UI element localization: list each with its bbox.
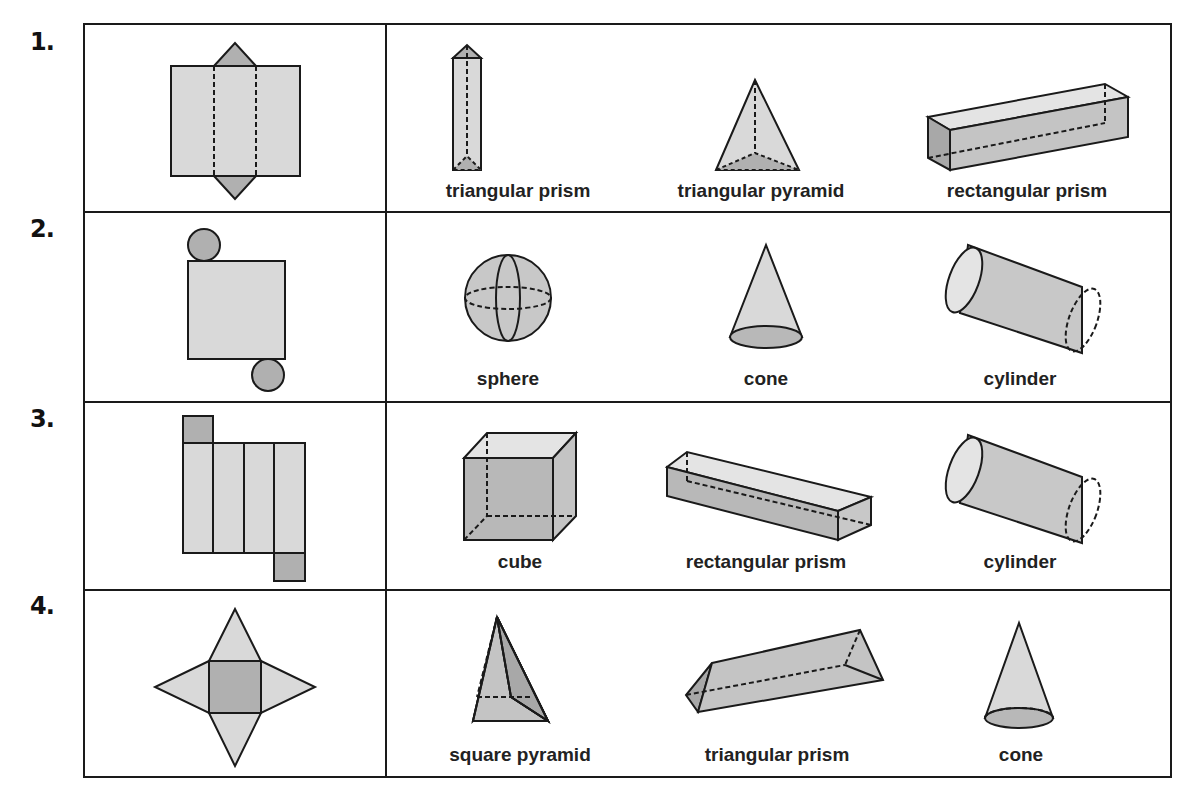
choice-label: triangular pyramid	[651, 180, 871, 202]
triangular-prism-icon[interactable]	[453, 45, 481, 170]
rectangular-prism-net-icon	[183, 416, 305, 581]
square-pyramid-icon[interactable]	[458, 617, 548, 721]
choice-label: square pyramid	[410, 744, 630, 766]
rectangular-prism-icon[interactable]	[667, 452, 871, 540]
choice-label: cylinder	[910, 551, 1130, 573]
choice-label: cylinder	[910, 368, 1130, 390]
cone-icon[interactable]	[730, 245, 802, 348]
triangular-prism-net-icon	[171, 43, 300, 199]
choice-label: rectangular prism	[917, 180, 1137, 202]
cylinder-icon[interactable]	[938, 243, 1107, 356]
choice-label: triangular prism	[667, 744, 887, 766]
choice-label: sphere	[398, 368, 618, 390]
cylinder-icon[interactable]	[938, 433, 1107, 546]
square-pyramid-net-icon	[155, 609, 315, 766]
cube-icon[interactable]	[464, 433, 576, 540]
choice-label: cone	[911, 744, 1131, 766]
cylinder-net-icon	[188, 229, 285, 391]
sphere-icon[interactable]	[465, 255, 551, 341]
choice-label: triangular prism	[408, 180, 628, 202]
triangular-pyramid-icon[interactable]	[716, 80, 799, 170]
choice-label: cone	[656, 368, 876, 390]
shapes-layer	[0, 0, 1199, 804]
choice-label: rectangular prism	[656, 551, 876, 573]
rectangular-prism-icon[interactable]	[928, 84, 1128, 170]
choice-label: cube	[410, 551, 630, 573]
cone-icon[interactable]	[985, 623, 1053, 728]
triangular-prism-icon[interactable]	[686, 630, 883, 712]
